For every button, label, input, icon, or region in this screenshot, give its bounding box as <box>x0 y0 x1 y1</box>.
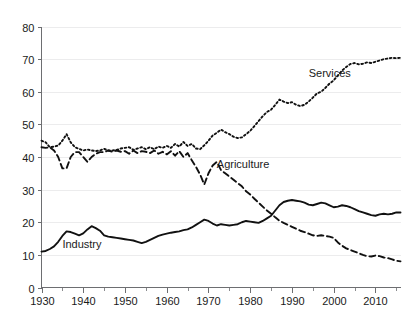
x-tick-label-1980: 1980 <box>238 295 262 307</box>
y-tick-label-20: 20 <box>22 217 34 229</box>
y-tick-label-0: 0 <box>28 283 34 295</box>
x-tick-label-1970: 1970 <box>196 295 220 307</box>
y-tick-label-30: 30 <box>22 185 34 197</box>
y-tick-label-60: 60 <box>22 87 34 99</box>
y-tick-label-40: 40 <box>22 152 34 164</box>
annotation-agriculture: Agriculture <box>217 158 270 170</box>
x-tick-label-2010: 2010 <box>363 295 387 307</box>
x-tick-label-1940: 1940 <box>71 295 95 307</box>
annotation-services: Services <box>309 67 352 79</box>
annotation-industry: Industry <box>62 238 102 250</box>
y-axis-tick-labels: 01020304050607080 <box>22 22 34 295</box>
chart-background <box>0 0 410 313</box>
line-chart: 01020304050607080 1930194019501960197019… <box>0 0 410 313</box>
x-tick-label-2000: 2000 <box>322 295 346 307</box>
y-tick-label-50: 50 <box>22 119 34 131</box>
y-tick-label-70: 70 <box>22 54 34 66</box>
y-tick-label-10: 10 <box>22 250 34 262</box>
y-tick-label-80: 80 <box>22 22 34 34</box>
x-tick-label-1990: 1990 <box>280 295 304 307</box>
x-axis-tick-labels: 193019401950196019701980199020002010 <box>30 295 387 307</box>
chart-container: 01020304050607080 1930194019501960197019… <box>0 0 410 313</box>
x-tick-label-1950: 1950 <box>113 295 137 307</box>
x-tick-label-1960: 1960 <box>155 295 179 307</box>
x-tick-label-1930: 1930 <box>30 295 54 307</box>
